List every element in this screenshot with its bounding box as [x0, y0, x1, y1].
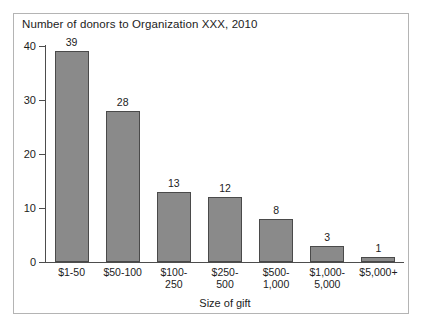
y-tick-mark — [39, 208, 45, 209]
x-category-label: $100-250 — [148, 266, 200, 290]
x-category-label-line: $250- — [199, 266, 251, 278]
x-category-label: $500-1,000 — [250, 266, 302, 290]
x-category-label-line: $50-100 — [97, 266, 149, 278]
bar[interactable] — [259, 219, 293, 262]
x-category-label-line: 1,000 — [250, 278, 302, 290]
bar-slot: 1 — [354, 46, 402, 262]
x-category-label: $1-50 — [46, 266, 98, 278]
x-axis-title: Size of gift — [46, 297, 404, 309]
bar-series: 39281312831 — [46, 46, 404, 262]
x-category-label-line: $100- — [148, 266, 200, 278]
bar-value-label: 1 — [354, 243, 402, 254]
bar[interactable] — [310, 246, 344, 262]
x-axis-labels: $1-50$50-100$100-250$250-500$500-1,000$1… — [46, 266, 404, 298]
bar-slot: 28 — [99, 46, 147, 262]
bar-slot: 3 — [303, 46, 351, 262]
bar-slot: 39 — [48, 46, 96, 262]
y-tick-label: 10 — [6, 203, 36, 214]
bar-slot: 8 — [252, 46, 300, 262]
bar[interactable] — [157, 192, 191, 262]
figure: Number of donors to Organization XXX, 20… — [0, 0, 423, 330]
x-category-label: $5,000+ — [352, 266, 404, 278]
x-category-label-line: $1,000- — [301, 266, 353, 278]
bar-value-label: 8 — [252, 205, 300, 216]
bar[interactable] — [55, 51, 89, 262]
y-tick-mark — [39, 262, 45, 263]
x-category-label: $50-100 — [97, 266, 149, 278]
bar-slot: 12 — [201, 46, 249, 262]
bar[interactable] — [106, 111, 140, 262]
y-tick-mark — [39, 46, 45, 47]
bar-value-label: 12 — [201, 183, 249, 194]
chart-title: Number of donors to Organization XXX, 20… — [22, 18, 258, 31]
bar[interactable] — [361, 257, 395, 262]
x-category-label-line: 5,000 — [301, 278, 353, 290]
y-tick-label: 20 — [6, 149, 36, 160]
y-tick-label: 40 — [6, 41, 36, 52]
x-category-label-line: 250 — [148, 278, 200, 290]
x-category-label-line: $1-50 — [46, 266, 98, 278]
bar-value-label: 39 — [48, 37, 96, 48]
bar[interactable] — [208, 197, 242, 262]
bar-value-label: 13 — [150, 178, 198, 189]
x-category-label-line: $500- — [250, 266, 302, 278]
y-tick-mark — [39, 100, 45, 101]
y-tick-mark — [39, 154, 45, 155]
y-tick-label: 30 — [6, 95, 36, 106]
x-category-label: $1,000-5,000 — [301, 266, 353, 290]
bar-value-label: 28 — [99, 97, 147, 108]
x-category-label-line: $5,000+ — [352, 266, 404, 278]
y-tick-label: 0 — [6, 257, 36, 268]
x-category-label: $250-500 — [199, 266, 251, 290]
x-axis-line — [45, 262, 404, 263]
x-category-label-line: 500 — [199, 278, 251, 290]
bar-value-label: 3 — [303, 232, 351, 243]
bar-slot: 13 — [150, 46, 198, 262]
